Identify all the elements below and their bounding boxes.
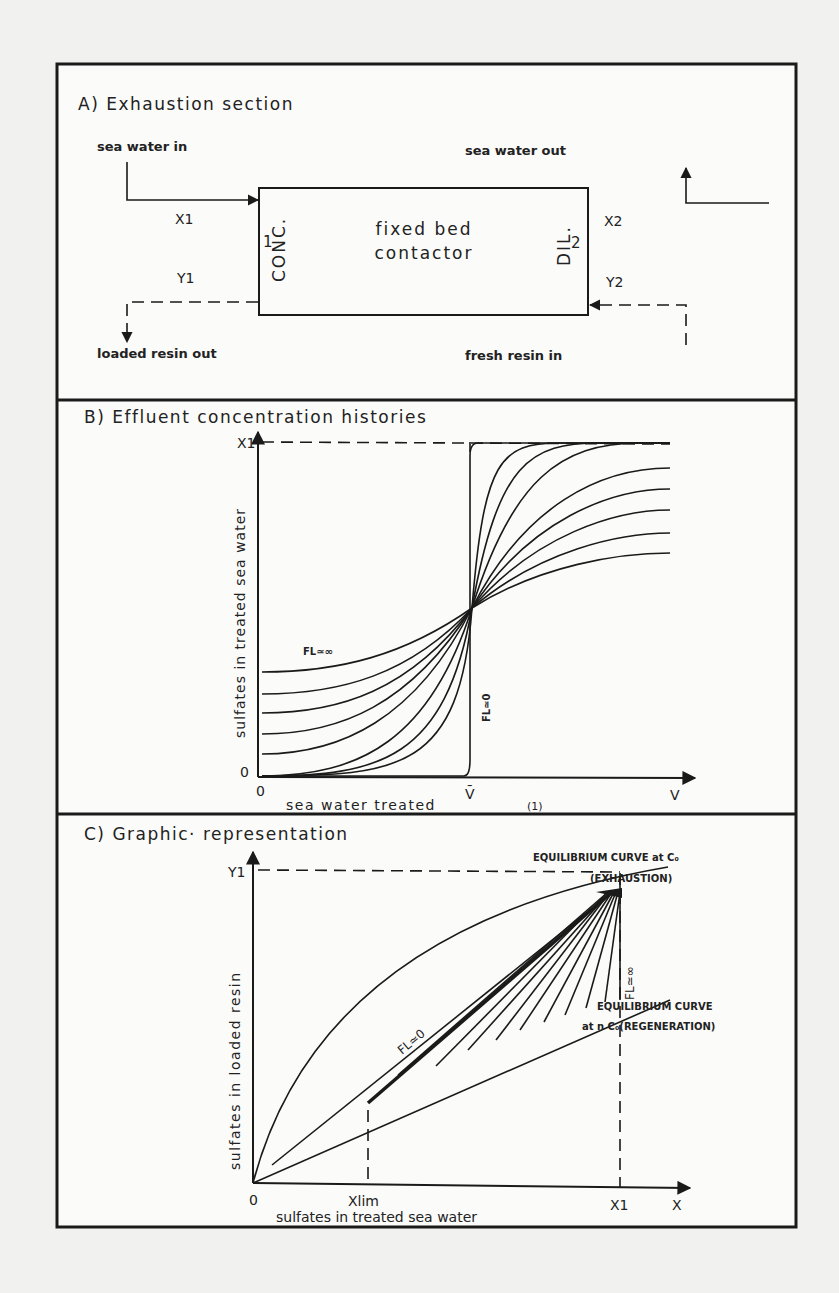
- c-label-fl-infinity: FL≃∞: [623, 966, 637, 1000]
- c-x-axis-label: sulfates in treated sea water: [276, 1209, 477, 1225]
- b-label-fl-zero: FL≃0: [481, 693, 492, 722]
- conc-side-number: 1: [263, 233, 273, 251]
- c-eq-reg-label-line2: at n C₀(REGENERATION): [582, 1021, 715, 1032]
- c-y-axis-label: sulfates in loaded resin: [227, 971, 243, 1170]
- b-label-fl-infinity: FL≃∞: [303, 646, 333, 657]
- b-y-origin: 0: [240, 764, 249, 780]
- c-x1-tick: X1: [610, 1197, 629, 1213]
- x1-label: X1: [175, 211, 194, 227]
- b-x-end-tick: V: [670, 787, 680, 803]
- dil-side-number: 2: [571, 234, 581, 252]
- panel-b-title: B) Effluent concentration histories: [84, 407, 427, 427]
- c-x-end-tick: X: [672, 1197, 682, 1213]
- c-origin: 0: [249, 1192, 258, 1208]
- c-y-top-tick: Y1: [227, 864, 245, 880]
- b-x-axis: [258, 777, 695, 778]
- c-xlim-tick: Xlim: [348, 1193, 379, 1209]
- panel-c-title: C) Graphic· representation: [84, 824, 349, 844]
- c-eq-exh-label-line1: EQUILIBRIUM CURVE at C₀: [533, 852, 679, 863]
- loaded-resin-out-label: loaded resin out: [97, 346, 217, 361]
- b-x-mid-tick: V̄: [465, 785, 475, 802]
- y1-label: Y1: [176, 270, 194, 286]
- figure-canvas: A) Exhaustion section fixed bed contacto…: [0, 0, 839, 1293]
- b-x-origin: 0: [256, 783, 265, 799]
- b-y-top-tick: X1: [237, 435, 256, 451]
- sea-water-out-label: sea water out: [465, 143, 566, 158]
- fresh-resin-in-label: fresh resin in: [465, 348, 562, 363]
- c-eq-reg-label-line1: EQUILIBRIUM CURVE: [597, 1001, 713, 1012]
- panel-a-title: A) Exhaustion section: [78, 94, 294, 114]
- sea-water-in-label: sea water in: [97, 139, 187, 154]
- b-y-axis-label: sulfates in treated sea water: [232, 508, 248, 738]
- box-label-line2: contactor: [374, 243, 473, 263]
- x2-label: X2: [604, 213, 623, 229]
- b-x-axis-label: sea water treated: [286, 797, 436, 813]
- b-equation-ref: (1): [527, 800, 543, 813]
- y2-label: Y2: [605, 274, 623, 290]
- box-label-line1: fixed bed: [376, 219, 473, 239]
- c-eq-exh-label-line2: (EXHAUSTION): [590, 873, 672, 884]
